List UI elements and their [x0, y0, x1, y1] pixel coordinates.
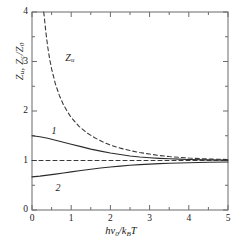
x-axis-label-text: hν0/kBT	[105, 225, 136, 236]
chart-plot-area	[0, 0, 242, 245]
curve-label-Zu: Zu	[65, 52, 74, 63]
series-Zu	[44, 12, 228, 160]
x-tick-label: 3	[140, 213, 160, 223]
x-axis-label: hν0/kBT	[0, 225, 242, 238]
figure-container: Zu, Zc/Z0 hν0/kBT 01234501234 Zu12	[0, 0, 242, 245]
x-tick-label: 5	[218, 213, 238, 223]
axes-frame	[32, 12, 228, 210]
y-tick-label: 2	[16, 105, 28, 115]
y-tick-label: 4	[16, 6, 28, 16]
x-tick-label: 2	[100, 213, 120, 223]
x-tick-label: 0	[22, 213, 42, 223]
y-tick-label: 1	[16, 155, 28, 165]
axis-ticks	[32, 12, 228, 210]
series-2	[32, 162, 228, 177]
x-tick-label: 1	[61, 213, 81, 223]
series-1	[32, 136, 228, 160]
curve-label-1: 1	[52, 125, 57, 136]
data-series-layer	[32, 12, 228, 177]
y-tick-label: 0	[16, 204, 28, 214]
y-tick-label: 3	[16, 56, 28, 66]
curve-label-2: 2	[56, 182, 61, 193]
x-tick-label: 4	[179, 213, 199, 223]
